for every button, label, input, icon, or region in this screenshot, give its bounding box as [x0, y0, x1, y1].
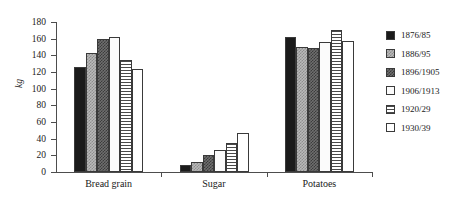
bar-bread-grain-1886-95: [86, 53, 98, 172]
legend-swatch-icon: [386, 105, 395, 114]
bar-chart: kg 020406080100120140160180 Bread grainS…: [0, 0, 460, 200]
y-axis-tick-label: 140: [0, 55, 48, 56]
y-axis-tick-value: 0: [41, 167, 46, 177]
x-axis-line: [56, 172, 373, 173]
x-axis-category-label: Potatoes: [267, 178, 372, 189]
y-axis-title: kg: [14, 79, 24, 88]
y-axis-tick-value: 40: [37, 134, 47, 144]
y-axis-tick-value: 20: [37, 150, 47, 160]
legend-label: 1886/95: [401, 49, 431, 59]
legend-item[interactable]: 1896/1905: [386, 63, 440, 82]
y-axis-tick-value: 60: [37, 117, 47, 127]
legend-label: 1930/39: [401, 123, 431, 133]
x-axis-category-label: Sugar: [161, 178, 266, 189]
y-axis-tick-value: 140: [32, 50, 46, 60]
y-axis-tick-label: 180: [0, 22, 48, 23]
bar-bread-grain-1906-1913: [109, 37, 121, 172]
bar-potatoes-1876-85: [285, 37, 297, 172]
legend-label: 1896/1905: [401, 67, 440, 77]
y-axis-tick-value: 120: [32, 67, 46, 77]
bar-bread-grain-1876-85: [74, 67, 86, 172]
y-axis-tick-label: 60: [0, 122, 48, 123]
y-axis-tick-label: 160: [0, 39, 48, 40]
legend-swatch-icon: [386, 86, 395, 95]
legend-label: 1920/29: [401, 104, 431, 114]
bar-bread-grain-1920-29: [120, 60, 132, 172]
bar-potatoes-1930-39: [342, 41, 354, 172]
bar-potatoes-1896-1905: [308, 48, 320, 172]
bar-bread-grain-1896-1905: [97, 39, 109, 172]
y-axis-tick-label: 20: [0, 155, 48, 156]
bar-sugar-1896-1905: [203, 155, 215, 173]
bar-sugar-1930-39: [237, 133, 249, 172]
x-axis-end-tick: [372, 172, 373, 177]
legend-item[interactable]: 1920/29: [386, 100, 440, 119]
y-axis-tick-value: 80: [37, 100, 47, 110]
y-axis-tick-label: 100: [0, 89, 48, 90]
y-axis-tick-label: 0: [0, 172, 48, 173]
bar-bread-grain-1930-39: [132, 69, 144, 172]
y-axis-tick-label: 40: [0, 139, 48, 140]
bar-potatoes-1906-1913: [319, 42, 331, 172]
y-axis-tick-label: 80: [0, 105, 48, 106]
legend-swatch-icon: [386, 68, 395, 77]
y-axis-tick-value: 100: [32, 84, 46, 94]
legend-item[interactable]: 1876/85: [386, 26, 440, 45]
bar-potatoes-1886-95: [296, 47, 308, 172]
bar-sugar-1876-85: [180, 165, 192, 172]
legend-item[interactable]: 1906/1913: [386, 82, 440, 101]
x-axis-group-separator: [161, 172, 162, 177]
chart-legend: 1876/851886/951896/19051906/19131920/291…: [386, 26, 440, 137]
legend-item[interactable]: 1886/95: [386, 45, 440, 64]
legend-swatch-icon: [386, 31, 395, 40]
legend-label: 1906/1913: [401, 86, 440, 96]
x-axis-group-separator: [267, 172, 268, 177]
y-axis-tick-value: 160: [32, 34, 46, 44]
legend-label: 1876/85: [401, 30, 431, 40]
y-axis-tick-value: 180: [32, 17, 46, 27]
x-axis-category-label: Bread grain: [56, 178, 161, 189]
y-axis-tick-label: 120: [0, 72, 48, 73]
plot-area: [56, 22, 372, 172]
legend-swatch-icon: [386, 123, 395, 132]
legend-swatch-icon: [386, 49, 395, 58]
bar-potatoes-1920-29: [331, 30, 343, 173]
bar-sugar-1886-95: [191, 162, 203, 172]
bar-sugar-1906-1913: [214, 150, 226, 172]
legend-item[interactable]: 1930/39: [386, 119, 440, 138]
bar-sugar-1920-29: [226, 143, 238, 172]
